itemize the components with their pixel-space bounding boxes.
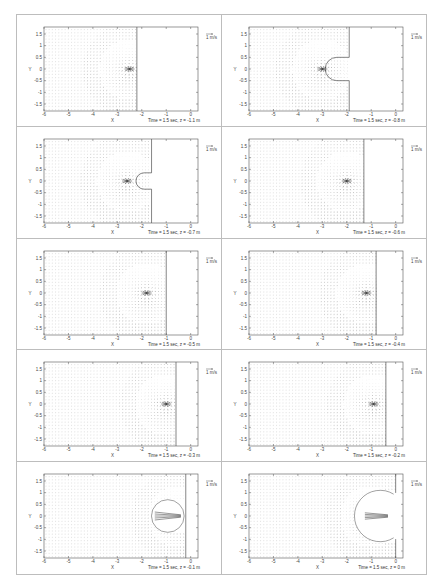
x-tick-label: -4 [295,112,299,117]
y-tick-label: 0.5 [240,502,247,507]
panel-5: -6-5-4-3-2-101.510.50-0.5-1-1.5XYTime = … [17,239,222,351]
x-tick-label: -5 [66,336,70,341]
y-axis-label: Y [233,67,236,72]
plot-frame [44,139,198,223]
y-tick-label: -0.5 [34,302,42,307]
y-tick-label: 1.5 [36,255,43,260]
y-tick-label: 1 [39,379,42,384]
y-tick-label: 1 [39,43,42,48]
y-tick-label: -1 [38,90,42,95]
x-tick-label: 0 [394,224,397,229]
quiver-plot: -6-5-4-3-2-101.510.50-0.5-1-1.5XYTime = … [222,350,427,462]
x-tick-label: -2 [140,224,144,229]
y-tick-label: 0 [39,178,42,183]
x-tick-label: -5 [66,559,70,564]
x-tick-label: -4 [295,559,299,564]
y-axis-label: Y [233,178,236,183]
reference-arrow-label: 1 m/s [206,147,218,152]
x-tick-label: -3 [320,112,324,117]
x-tick-label: -1 [164,336,168,341]
quiver-plot: -6-5-4-3-2-101.510.50-0.5-1-1.5XYTime = … [17,239,222,351]
panel-7: -6-5-4-3-2-101.510.50-0.5-1-1.5XYTime = … [17,350,222,462]
panel-caption: Time = 1.5 sec, z = -0.1 m [148,565,200,570]
x-tick-label: -4 [91,224,95,229]
x-tick-label: -4 [295,447,299,452]
quiver-plot: -6-5-4-3-2-101.510.50-0.5-1-1.5XYTime = … [17,350,222,462]
y-tick-label: 1 [39,267,42,272]
x-tick-label: -3 [320,447,324,452]
x-tick-label: 0 [394,447,397,452]
y-tick-label: -1.5 [239,102,247,107]
plot-frame [249,362,403,446]
x-tick-label: -1 [164,112,168,117]
y-tick-label: -1 [38,537,42,542]
reference-arrow-label: 1 m/s [411,482,423,487]
y-tick-label: 0 [39,514,42,519]
x-tick-label: -3 [115,112,119,117]
reference-arrow-label: 1 m/s [411,147,423,152]
vector-field [250,141,363,222]
x-tick-label: -5 [66,224,70,229]
x-tick-label: -2 [344,224,348,229]
y-axis-label: Y [233,402,236,407]
y-tick-label: -0.5 [239,302,247,307]
x-axis-label: X [111,230,114,235]
x-tick-label: -1 [369,336,373,341]
y-tick-label: -0.5 [34,525,42,530]
x-tick-label: -4 [295,224,299,229]
vector-field [46,253,165,334]
y-axis-label: Y [28,514,31,519]
y-tick-label: 1.5 [240,255,247,260]
y-tick-label: -0.5 [239,190,247,195]
panel-4: -6-5-4-3-2-101.510.50-0.5-1-1.5XYTime = … [222,127,427,239]
boundary-line [136,139,152,223]
plot-frame [249,251,403,335]
y-tick-label: -1 [242,537,246,542]
x-tick-label: -1 [164,559,168,564]
y-tick-label: -1.5 [239,213,247,218]
y-axis-label: Y [233,514,236,519]
y-axis-label: Y [28,402,31,407]
plot-frame [249,139,403,223]
y-tick-label: 1.5 [240,479,247,484]
x-tick-label: -5 [271,336,275,341]
panel-6: -6-5-4-3-2-101.510.50-0.5-1-1.5XYTime = … [222,239,427,351]
x-tick-label: -4 [91,336,95,341]
panel-caption: Time = 1.5 sec, z = -0.3 m [148,453,200,458]
y-tick-label: 1.5 [240,367,247,372]
x-tick-label: -1 [369,447,373,452]
x-tick-label: -6 [246,336,250,341]
vector-field [46,29,137,110]
quiver-plot: -6-5-4-3-2-101.510.50-0.5-1-1.5XYTime = … [222,462,427,574]
y-tick-label: -1 [242,425,246,430]
x-tick-label: -4 [91,447,95,452]
y-tick-label: -1.5 [34,437,42,442]
quiver-plot: -6-5-4-3-2-101.510.50-0.5-1-1.5XYTime = … [222,15,427,127]
y-tick-label: -1.5 [239,437,247,442]
y-tick-label: 1.5 [240,143,247,148]
y-tick-label: -0.5 [239,525,247,530]
panel-caption: Time = 1.5 sec, z = -0.7 m [148,230,200,235]
y-tick-label: 0.5 [240,390,247,395]
vector-field [46,364,175,445]
y-tick-label: -1.5 [34,213,42,218]
y-tick-label: 1.5 [240,32,247,37]
x-tick-label: -2 [140,336,144,341]
reference-arrow-label: 1 m/s [411,370,423,375]
y-tick-label: 1 [244,43,247,48]
x-tick-label: -1 [369,559,373,564]
panel-10: -6-5-4-3-2-101.510.50-0.5-1-1.5XYTime = … [222,462,427,574]
panel-1: -6-5-4-3-2-101.510.50-0.5-1-1.5XYTime = … [17,15,222,127]
x-tick-label: -6 [246,559,250,564]
y-tick-label: -1 [38,202,42,207]
y-tick-label: -1 [242,202,246,207]
x-tick-label: -6 [42,224,46,229]
plot-frame [44,251,198,335]
y-axis-label: Y [28,67,31,72]
x-axis-label: X [111,118,114,123]
y-tick-label: 0 [39,67,42,72]
x-axis-label: X [111,565,114,570]
reference-arrow-label: 1 m/s [206,482,218,487]
x-tick-label: 0 [189,447,192,452]
y-tick-label: -0.5 [239,414,247,419]
